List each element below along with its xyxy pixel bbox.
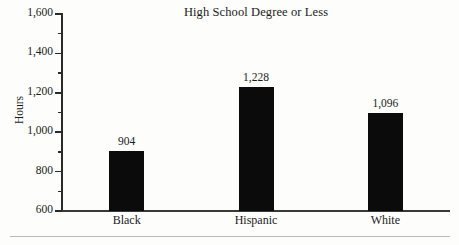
bar	[368, 113, 403, 211]
bottom-divider-rule	[10, 236, 450, 237]
y-axis-tick-label: 800	[1, 164, 53, 176]
bar	[239, 87, 274, 211]
y-axis-tick-label: 1,000	[1, 124, 53, 136]
plot-area: 9041,2281,096	[62, 14, 450, 211]
y-axis-tick-label: 1,200	[1, 85, 53, 97]
bar-value-label: 1,096	[345, 97, 425, 109]
y-axis-tick-label: 600	[1, 203, 53, 215]
x-axis-category-label: Hispanic	[206, 213, 306, 228]
y-axis-tick-label: 1,400	[1, 45, 53, 57]
bar-value-label: 904	[87, 135, 167, 147]
y-axis-tick-labels: 6008001,0001,2001,4001,600	[0, 0, 53, 245]
x-axis-category-label: Black	[77, 213, 177, 228]
x-axis-category-label: White	[335, 213, 435, 228]
y-axis-tick-label: 1,600	[1, 6, 53, 18]
bar-chart-figure: High School Degree or Less Hours 6008001…	[0, 0, 459, 245]
bar-value-label: 1,228	[216, 71, 296, 83]
bar	[109, 151, 144, 211]
